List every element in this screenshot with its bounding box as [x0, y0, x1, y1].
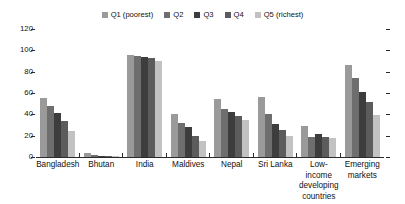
bar — [192, 136, 199, 157]
bar — [286, 136, 293, 157]
x-axis-label-line: developing — [297, 181, 341, 192]
bar-group — [297, 29, 341, 157]
y-tick-mark-right — [386, 72, 390, 73]
bar — [68, 131, 75, 157]
x-axis-label: Nepal — [210, 160, 254, 202]
x-axis-label: Maldives — [167, 160, 211, 202]
legend-swatch-icon — [194, 12, 200, 18]
legend-item[interactable]: Q4 — [225, 11, 244, 19]
y-tick-mark-right — [386, 136, 390, 137]
bar — [148, 58, 155, 157]
bar — [127, 55, 134, 157]
legend-item[interactable]: Q2 — [164, 11, 183, 19]
bar — [301, 126, 308, 157]
bar — [373, 115, 380, 157]
bar — [221, 109, 228, 157]
x-axis-label-line: Emerging — [341, 160, 385, 171]
legend-swatch-icon — [102, 12, 108, 18]
bar — [178, 123, 185, 157]
x-axis-label-line: Low-income — [297, 160, 341, 181]
plot-area: 120100806040200 — [36, 29, 384, 157]
bar-group — [123, 29, 167, 157]
legend-item[interactable]: Q5 (richest) — [255, 11, 304, 19]
bar — [279, 130, 286, 157]
bar — [141, 57, 148, 157]
bar — [366, 102, 373, 157]
bar-groups — [36, 29, 384, 157]
legend-label: Q3 — [203, 11, 213, 19]
bar — [345, 65, 352, 157]
x-axis-label: Low-incomedevelopingcountries — [297, 160, 341, 202]
y-tick-mark-left — [31, 114, 35, 115]
bar — [54, 113, 61, 157]
bar — [185, 127, 192, 157]
y-tick-mark-left — [31, 157, 35, 158]
y-tick-mark-left — [31, 29, 35, 30]
y-tick-mark-right — [386, 93, 390, 94]
legend-swatch-icon — [164, 12, 170, 18]
bar-group — [36, 29, 80, 157]
bar-group — [210, 29, 254, 157]
legend-swatch-icon — [255, 12, 261, 18]
x-axis-label-line: countries — [297, 192, 341, 203]
bar — [47, 106, 54, 157]
bar — [315, 134, 322, 157]
bar — [235, 116, 242, 157]
y-tick-mark-right — [386, 29, 390, 30]
bar — [258, 97, 265, 157]
bar — [40, 98, 47, 157]
x-axis-label-line: India — [123, 160, 167, 171]
legend-swatch-icon — [225, 12, 231, 18]
x-axis-labels: BangladeshBhutanIndiaMaldivesNepalSri La… — [36, 160, 384, 202]
legend-label: Q5 (richest) — [264, 11, 304, 19]
bar — [272, 124, 279, 157]
bar — [171, 114, 178, 157]
bar — [359, 92, 366, 157]
y-tick-mark-right — [386, 114, 390, 115]
legend-item[interactable]: Q3 — [194, 11, 213, 19]
x-axis-label: Sri Lanka — [254, 160, 298, 202]
bar-chart: Q1 (poorest)Q2Q3Q4Q5 (richest) 120100806… — [0, 0, 405, 204]
x-axis-label: India — [123, 160, 167, 202]
legend-label: Q1 (poorest) — [111, 11, 154, 19]
bar — [242, 120, 249, 157]
bar — [329, 138, 336, 157]
bar — [265, 114, 272, 157]
chart-legend: Q1 (poorest)Q2Q3Q4Q5 (richest) — [0, 11, 405, 19]
bar — [308, 137, 315, 157]
x-axis-label: Emergingmarkets — [341, 160, 385, 202]
x-axis-line — [36, 157, 384, 158]
y-tick-mark-left — [31, 93, 35, 94]
bar — [322, 137, 329, 157]
bar-group — [254, 29, 298, 157]
x-axis-label-line: Maldives — [167, 160, 211, 171]
bar — [352, 78, 359, 157]
legend-label: Q2 — [173, 11, 183, 19]
x-axis-label-line: Bangladesh — [36, 160, 80, 171]
x-axis-label-line: markets — [341, 171, 385, 182]
bar — [155, 61, 162, 157]
bar — [61, 121, 68, 157]
x-axis-label-line: Nepal — [210, 160, 254, 171]
y-tick-mark-left — [31, 72, 35, 73]
x-axis-label: Bangladesh — [36, 160, 80, 202]
x-axis-label-line: Sri Lanka — [254, 160, 298, 171]
bar-group — [167, 29, 211, 157]
bar — [214, 99, 221, 157]
bar — [199, 141, 206, 157]
y-tick-mark-right — [386, 157, 390, 158]
bar-group — [341, 29, 385, 157]
legend-item[interactable]: Q1 (poorest) — [102, 11, 154, 19]
bar — [134, 56, 141, 157]
x-axis-label-line: Bhutan — [80, 160, 124, 171]
y-tick-mark-left — [31, 50, 35, 51]
y-tick-mark-right — [386, 50, 390, 51]
bar-group — [80, 29, 124, 157]
x-axis-label: Bhutan — [80, 160, 124, 202]
y-tick-mark-left — [31, 136, 35, 137]
bar — [228, 112, 235, 157]
legend-label: Q4 — [234, 11, 244, 19]
